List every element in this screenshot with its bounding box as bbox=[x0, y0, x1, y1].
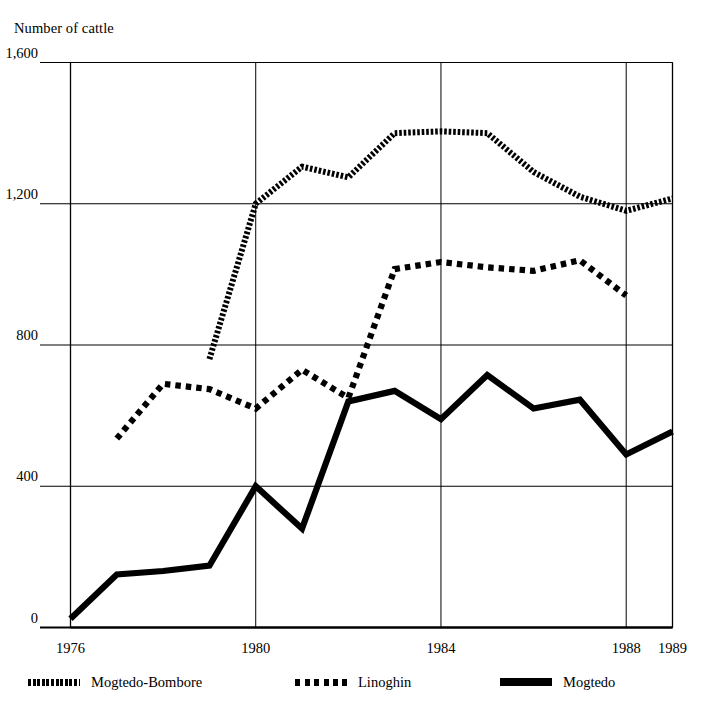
series-line-mogtedo bbox=[71, 375, 673, 619]
y-tick-marks bbox=[40, 63, 71, 487]
y-tick-label: 1,200 bbox=[0, 186, 38, 203]
legend-label: Mogtedo-Bombore bbox=[91, 674, 202, 691]
y-tick-label: 1,600 bbox=[0, 45, 38, 62]
fine-dotted-swatch-icon bbox=[28, 679, 80, 686]
y-tick-label: 0 bbox=[0, 610, 38, 627]
legend-item-mogtedo-bombore: Mogtedo-Bombore bbox=[28, 672, 202, 692]
coarse-dotted-swatch-icon bbox=[295, 679, 347, 686]
plot-area bbox=[0, 0, 704, 705]
x-tick-label: 1989 bbox=[643, 640, 703, 657]
legend-item-mogtedo: Mogtedo bbox=[500, 672, 615, 692]
y-tick-label: 400 bbox=[0, 468, 38, 485]
series-line-linoghin bbox=[117, 260, 626, 438]
x-tick-label: 1984 bbox=[411, 640, 471, 657]
y-tick-label: 800 bbox=[0, 327, 38, 344]
x-tick-label: 1980 bbox=[226, 640, 286, 657]
cattle-line-chart: Number of cattle 04008001,2001,600 19761… bbox=[0, 0, 704, 705]
legend-label: Mogtedo bbox=[563, 674, 615, 691]
legend-label: Linoghin bbox=[358, 674, 411, 691]
series-lines bbox=[71, 131, 673, 618]
legend-item-linoghin: Linoghin bbox=[295, 672, 411, 692]
gridlines bbox=[40, 63, 673, 628]
x-tick-label: 1976 bbox=[41, 640, 101, 657]
solid-swatch-icon bbox=[500, 678, 552, 686]
chart-legend: Mogtedo-Bombore Linoghin Mogtedo bbox=[0, 672, 704, 700]
